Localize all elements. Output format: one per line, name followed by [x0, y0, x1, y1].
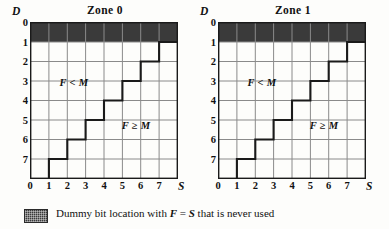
- col-label-0-0: 0: [23, 180, 37, 191]
- y-axis-label-1: D: [200, 5, 208, 17]
- row-label-1-3: 3: [202, 75, 216, 86]
- col-label-1-7: 7: [340, 180, 354, 191]
- figure-dummy-bit-zone-maps: Zone 0 D S 0 1 2 3 4 5 6 7: [0, 0, 389, 229]
- row-label-1-4: 4: [202, 95, 216, 106]
- caption-text: Dummy bit location with F = S that is ne…: [56, 207, 274, 219]
- row-label-1-6: 6: [202, 134, 216, 145]
- zone-title-0: Zone 0: [30, 4, 180, 16]
- region-label-lower-1: F ≥ M: [310, 120, 339, 131]
- row-label-0-0: 0: [14, 17, 28, 28]
- row-label-0-1: 1: [14, 36, 28, 47]
- row-labels-1: 0 1 2 3 4 5 6 7: [202, 22, 216, 178]
- col-label-0-1: 1: [42, 180, 56, 191]
- caption-condition-left: F: [170, 207, 177, 219]
- col-label-1-2: 2: [248, 180, 262, 191]
- row-label-0-3: 3: [14, 75, 28, 86]
- zone-chart-1: Zone 1 D S 0 1 2 3 4 5 6 7: [188, 0, 374, 205]
- row-label-1-7: 7: [202, 153, 216, 164]
- col-label-1-3: 3: [267, 180, 281, 191]
- grid-svg-1: [218, 22, 366, 179]
- col-label-0-6: 6: [134, 180, 148, 191]
- caption-prefix: Dummy bit location with: [56, 207, 170, 219]
- row-label-0-6: 6: [14, 134, 28, 145]
- col-labels-1: 0 1 2 3 4 5 6 7: [218, 180, 366, 194]
- figure-caption: Dummy bit location with F = S that is ne…: [0, 206, 389, 229]
- dummy-bit-swatch-icon: [24, 209, 48, 223]
- col-label-1-5: 5: [303, 180, 317, 191]
- col-label-0-7: 7: [152, 180, 166, 191]
- col-label-0-4: 4: [97, 180, 111, 191]
- row-label-0-5: 5: [14, 114, 28, 125]
- grid-0: F < M F ≥ M: [30, 22, 178, 178]
- col-label-1-1: 1: [230, 180, 244, 191]
- x-axis-label-0: S: [178, 180, 184, 192]
- col-label-1-0: 0: [211, 180, 225, 191]
- row-label-1-0: 0: [202, 17, 216, 28]
- row-labels-0: 0 1 2 3 4 5 6 7: [14, 22, 28, 178]
- row-label-0-7: 7: [14, 153, 28, 164]
- row-label-1-2: 2: [202, 56, 216, 67]
- col-label-1-4: 4: [285, 180, 299, 191]
- caption-suffix: that is never used: [195, 207, 274, 219]
- x-axis-label-1: S: [366, 180, 372, 192]
- row-label-1-5: 5: [202, 114, 216, 125]
- row-label-0-4: 4: [14, 95, 28, 106]
- caption-equals: =: [177, 207, 189, 219]
- grid-1: F < M F ≥ M: [218, 22, 366, 178]
- col-labels-0: 0 1 2 3 4 5 6 7: [30, 180, 178, 194]
- col-label-0-2: 2: [60, 180, 74, 191]
- region-label-lower-0: F ≥ M: [122, 120, 151, 131]
- row-label-1-1: 1: [202, 36, 216, 47]
- row-label-0-2: 2: [14, 56, 28, 67]
- zone-chart-0: Zone 0 D S 0 1 2 3 4 5 6 7: [0, 0, 186, 205]
- region-label-upper-1: F < M: [248, 77, 277, 88]
- col-label-1-6: 6: [322, 180, 336, 191]
- region-label-upper-0: F < M: [60, 77, 89, 88]
- col-label-0-5: 5: [115, 180, 129, 191]
- y-axis-label-0: D: [12, 5, 20, 17]
- col-label-0-3: 3: [79, 180, 93, 191]
- grid-svg-0: [30, 22, 178, 179]
- zone-title-1: Zone 1: [218, 4, 368, 16]
